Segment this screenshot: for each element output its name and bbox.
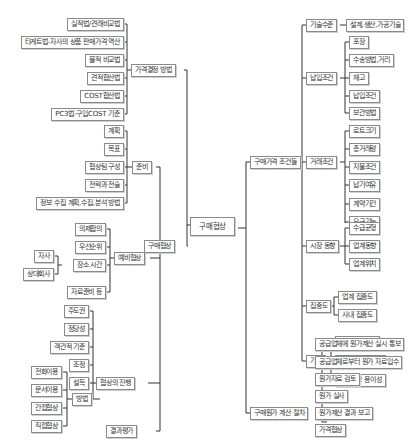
delivery-node: 납입조건	[306, 72, 337, 85]
pre-negotiation-item: 우선순위	[75, 241, 106, 254]
method-sub-item: 간접협상	[31, 402, 62, 415]
trade-item: 지불조건	[349, 161, 380, 174]
tech-node: 기술수준	[306, 19, 337, 32]
delivery-item: 재고	[349, 72, 369, 85]
price-method-item: 물적 비교법	[85, 54, 124, 67]
price-method-item: COST합산법	[80, 90, 124, 103]
prep-item: 협상팀 구성	[85, 161, 124, 174]
method-sub-item: 문서이용	[31, 384, 62, 397]
pre-negotiation-item: 의제합의	[75, 223, 106, 236]
trade-item: 계약기간	[349, 198, 380, 211]
costing-node: 구매원가 계산 절차	[250, 407, 308, 420]
place-sub-item: 자사	[34, 250, 54, 263]
delivery-item: 포장	[349, 36, 369, 49]
negotiation-node: 구매협상	[144, 240, 175, 253]
costing-item: 원가계산 결과 보고	[315, 407, 373, 420]
costing-item: 원가자료 검토	[315, 373, 360, 386]
tech-item: 설계,생산,가공기술	[346, 19, 404, 32]
price-method-item: 견적합산법	[87, 72, 124, 85]
price-method-item: PC3법-구입COST 기준	[51, 108, 124, 121]
pre-negotiation-item: 장소 시간	[73, 259, 106, 272]
method-sub-item: 전화이용	[31, 366, 62, 379]
progress-item: 조정	[69, 359, 89, 372]
conditions-node: 구매가격 조건들	[250, 156, 301, 169]
place-sub-item: 상대회사	[23, 268, 54, 281]
costing-item: 가격협상	[315, 424, 346, 437]
progress-item: 정당성	[64, 323, 89, 336]
prep-item: 계획	[104, 125, 124, 138]
prep-item: 정보 수집 계획,수집,분석 방법	[36, 197, 124, 210]
trade-item: 납기여유	[349, 179, 380, 192]
result-evaluation-node: 결과평가	[106, 425, 137, 438]
costing-item: 공급업체로부터 원가 자료입수	[315, 356, 402, 369]
pre-negotiation-node: 예비협상	[114, 252, 145, 265]
concentration-item: 사내 집중도	[338, 309, 377, 322]
price-method-node: 가격결정 방법	[131, 64, 176, 77]
prep-item: 전략과 전술	[85, 179, 124, 192]
concentration-node: 집중도	[306, 300, 331, 313]
prep-item: 목표	[104, 143, 124, 156]
progress-item: 주도권	[64, 305, 89, 318]
market-node: 시장 동향	[306, 240, 339, 253]
progress-item: 설득	[69, 377, 89, 390]
trade-item: 로트크기	[349, 125, 380, 138]
method-sub-item: 직접협상	[31, 420, 62, 433]
delivery-item: 납입조건	[349, 90, 380, 103]
delivery-item: 보관방법	[349, 107, 380, 120]
progress-item: 객관적 기준	[50, 341, 89, 354]
trade-node: 거래조건	[306, 156, 337, 169]
progress-node: 협상의 진행	[96, 377, 135, 390]
root-node: 구매협상	[190, 217, 235, 236]
concentration-item: 업계 집중도	[338, 291, 377, 304]
pre-negotiation-item: 자료준비 등	[67, 286, 106, 299]
market-item: 업계동향	[349, 240, 380, 253]
market-item: 수급균형	[349, 222, 380, 235]
costing-item: 공급업체에 원가계산 실시 통보	[315, 338, 404, 351]
prep-node: 준비	[132, 161, 152, 174]
price-method-item: 타게트법-자사의 상품 판매가격 역산	[21, 36, 124, 49]
price-method-item: 실적법/견래비교법	[67, 18, 124, 31]
delivery-item: 수송방법,거리	[349, 54, 394, 67]
trade-item: 총거래량	[349, 143, 380, 156]
method-node: 방법	[72, 393, 92, 406]
costing-item: 원가 실사	[315, 390, 348, 403]
market-item: 업계위치	[349, 258, 380, 271]
